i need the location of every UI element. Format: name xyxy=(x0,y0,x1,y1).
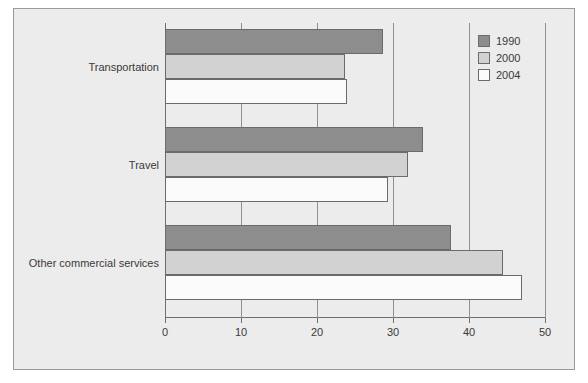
bar-2000-0 xyxy=(165,54,345,79)
bar-2000-2 xyxy=(165,250,503,275)
bar-chart-figure: TransportationTravelOther commercial ser… xyxy=(13,8,575,370)
legend-swatch-1990 xyxy=(478,35,490,47)
x-axis-line xyxy=(165,317,546,318)
bar-2004-0 xyxy=(165,79,347,104)
x-tick-label: 10 xyxy=(235,326,247,338)
legend-label: 2004 xyxy=(496,69,520,81)
bar-1990-0 xyxy=(165,29,383,54)
tick-mark-50 xyxy=(545,318,546,323)
category-label: Transportation xyxy=(88,61,159,73)
legend-swatch-2004 xyxy=(478,69,490,81)
bar-1990-2 xyxy=(165,225,451,250)
x-tick-label: 0 xyxy=(162,326,168,338)
legend-item-1990: 1990 xyxy=(478,33,544,49)
legend-item-2004: 2004 xyxy=(478,67,544,83)
legend-item-2000: 2000 xyxy=(478,50,544,66)
chart-legend: 199020002004 xyxy=(478,29,544,88)
tick-mark-20 xyxy=(317,318,318,323)
bar-2004-1 xyxy=(165,177,388,202)
x-tick-label: 40 xyxy=(463,326,475,338)
category-label: Travel xyxy=(129,159,159,171)
x-tick-label: 30 xyxy=(387,326,399,338)
category-axis-labels: TransportationTravelOther commercial ser… xyxy=(14,23,159,318)
bar-2000-1 xyxy=(165,152,408,177)
tick-mark-0 xyxy=(165,318,166,323)
x-tick-label: 20 xyxy=(311,326,323,338)
legend-swatch-2000 xyxy=(478,52,490,64)
x-tick-label: 50 xyxy=(539,326,551,338)
bar-1990-1 xyxy=(165,127,423,152)
gridline-50 xyxy=(545,23,546,318)
bar-2004-2 xyxy=(165,275,522,300)
legend-label: 2000 xyxy=(496,52,520,64)
legend-label: 1990 xyxy=(496,35,520,47)
tick-mark-40 xyxy=(469,318,470,323)
category-label: Other commercial services xyxy=(29,257,159,269)
tick-mark-10 xyxy=(241,318,242,323)
tick-mark-30 xyxy=(393,318,394,323)
